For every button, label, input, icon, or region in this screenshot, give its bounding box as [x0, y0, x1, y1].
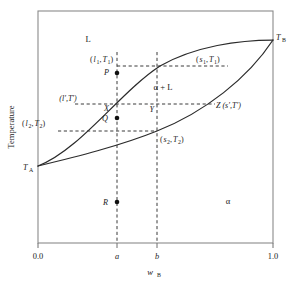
annotation-Z-sprimeTprime: Z (s′,T′) — [216, 101, 241, 110]
annotation-s2T2: ( s 2 , T 2 ) — [160, 135, 184, 145]
x-ticklabel-1: 1.0 — [268, 252, 278, 261]
annotation-s1T1-comma: , — [206, 55, 208, 64]
x-ticklabel-a: a — [115, 252, 119, 261]
annotation-l1T1-close: ) — [111, 55, 114, 64]
label-TB-sub: B — [282, 37, 286, 43]
label-TA-sub: A — [29, 167, 34, 173]
phase-diagram-figure: 0.0 a b 1.0 w B Temperature T A T B — [0, 0, 295, 291]
point-Q-label: Q — [102, 114, 108, 123]
phase-diagram-svg: 0.0 a b 1.0 w B Temperature T A T B — [0, 0, 295, 291]
annotation-s2T2-comma: , — [170, 135, 172, 144]
x-axis-title: w B — [147, 267, 161, 278]
annotation-lprimeTprime: (l′,T′) — [59, 94, 77, 103]
point-P-label: P — [103, 68, 109, 77]
annotation-l2T2-comma: , — [32, 119, 34, 128]
x-axis-ticks — [38, 243, 273, 248]
region-label-two-phase: α + L — [154, 82, 173, 92]
region-label-liquid: L — [85, 34, 90, 44]
y-axis-title: Temperature — [6, 105, 16, 148]
annotation-l1T1-comma: , — [100, 55, 102, 64]
annotation-s1T1-close: ) — [217, 55, 220, 64]
annotation-s2T2-close: ) — [181, 135, 184, 144]
x-axis-title-main: w — [147, 267, 153, 277]
annotation-l2T2: ( l 2 , T 2 ) — [22, 119, 46, 129]
annotation-l2T2-close: ) — [43, 119, 46, 128]
annotation-s1T1: ( s 1 , T 1 ) — [196, 55, 220, 65]
label-TA: T A — [23, 163, 34, 173]
point-X-label: X — [103, 104, 110, 113]
x-ticklabel-0: 0.0 — [33, 252, 43, 261]
x-ticklabel-b: b — [155, 252, 159, 261]
plot-frame — [38, 11, 273, 243]
point-Y: Y — [149, 105, 155, 114]
point-Q-marker — [115, 116, 120, 121]
x-axis-title-sub: B — [157, 272, 161, 278]
point-R-label: R — [102, 198, 108, 207]
point-X: X — [103, 104, 110, 113]
point-Y-label: Y — [149, 105, 155, 114]
label-TB: T B — [276, 33, 286, 43]
region-label-solid: α — [226, 196, 231, 206]
annotation-l1T1: ( l 1 , T 1 ) — [90, 55, 114, 65]
point-R-marker — [115, 200, 120, 205]
point-P-marker — [115, 71, 120, 76]
